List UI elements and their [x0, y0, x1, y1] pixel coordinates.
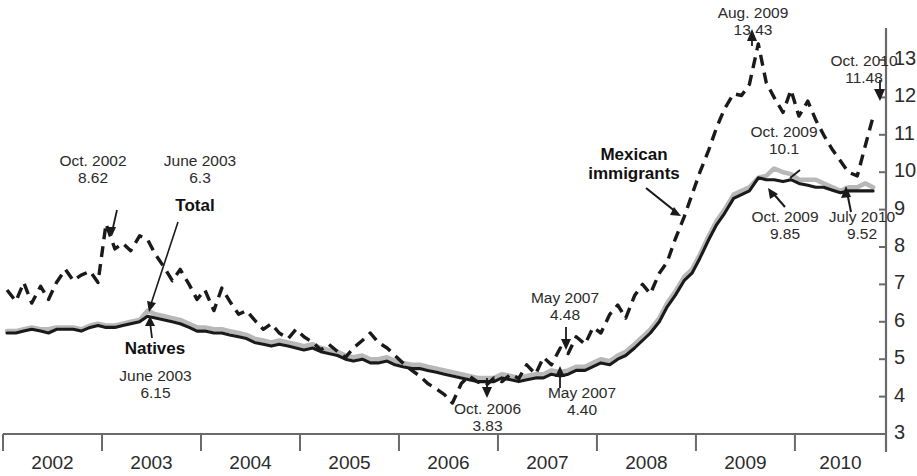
- annotation-oct-2002-date: Oct. 2002: [59, 152, 126, 169]
- x-tick-label-2008: 2008: [597, 452, 696, 474]
- x-tick-label-2005: 2005: [300, 452, 399, 474]
- annotation-june-2003-natives: June 2003 6.15: [98, 367, 213, 401]
- y-tick-label-8: 8: [894, 234, 905, 257]
- annotation-oct-2009-total-value: 10.1: [729, 140, 839, 157]
- annotation-june-2003-total-value: 6.3: [145, 169, 255, 186]
- series-label-mexican-line2: immigrants: [588, 164, 680, 183]
- x-tick-label-2006: 2006: [399, 452, 498, 474]
- x-tick-label-2007: 2007: [498, 452, 597, 474]
- y-tick-label-13: 13: [894, 47, 916, 70]
- annotation-oct-2009-natives-date: Oct. 2009: [751, 208, 818, 225]
- annotation-oct-2009-total-date: Oct. 2009: [750, 123, 817, 140]
- annotation-may-2007-mexican: May 2007 4.48: [510, 289, 620, 323]
- x-tick-label-2009: 2009: [696, 452, 795, 474]
- annotation-oct-2009-total: Oct. 2009 10.1: [729, 123, 839, 157]
- arrowhead-oct-2010: [874, 89, 885, 101]
- annotation-aug-2009-value: 13.43: [697, 21, 809, 38]
- leader-mexican-immigrants: [646, 188, 676, 212]
- annotation-july-2010-date: July 2010: [829, 208, 895, 225]
- x-tick-label-2003: 2003: [102, 452, 201, 474]
- annotation-oct-2006-date: Oct. 2006: [454, 400, 521, 417]
- chart-figure: Oct. 2002 8.62 June 2003 6.3 Total Nativ…: [0, 0, 917, 476]
- annotation-may-2007-natives: May 2007 4.40: [527, 384, 637, 418]
- series-label-total: Total: [140, 196, 250, 215]
- x-axis-ticks: [3, 434, 886, 451]
- series-label-total-text: Total: [175, 196, 214, 215]
- y-tick-label-3: 3: [894, 421, 905, 444]
- annotation-oct-2010-date: Oct. 2010: [830, 52, 897, 69]
- annotation-june-2003-natives-date: June 2003: [119, 367, 191, 384]
- annotation-aug-2009: Aug. 2009 13.43: [697, 4, 809, 38]
- annotation-may-2007-natives-value: 4.40: [527, 401, 637, 418]
- x-tick-label-2004: 2004: [201, 452, 300, 474]
- series-label-natives: Natives: [95, 339, 215, 358]
- x-tick-label-2002: 2002: [3, 452, 102, 474]
- annotation-june-2003-natives-value: 6.15: [98, 384, 213, 401]
- y-tick-label-12: 12: [894, 84, 916, 107]
- annotation-may-2007-mexican-date: May 2007: [531, 289, 599, 306]
- y-tick-label-7: 7: [894, 271, 905, 294]
- annotation-oct-2002-value: 8.62: [38, 169, 148, 186]
- series-label-mexican-line1: Mexican: [600, 145, 667, 164]
- x-tick-label-2010: 2010: [795, 452, 886, 474]
- leader-total: [150, 222, 178, 307]
- series-label-mexican-immigrants: Mexican immigrants: [569, 145, 699, 183]
- annotation-may-2007-mexican-value: 4.48: [510, 306, 620, 323]
- arrowhead-oct-2006: [482, 387, 492, 398]
- annotation-oct-2006-value: 3.83: [430, 417, 545, 434]
- y-tick-label-9: 9: [894, 197, 905, 220]
- annotation-aug-2009-date: Aug. 2009: [718, 4, 789, 21]
- y-tick-label-5: 5: [894, 346, 905, 369]
- annotation-may-2007-natives-date: May 2007: [548, 384, 616, 401]
- y-tick-label-6: 6: [894, 309, 905, 332]
- annotation-june-2003-total: June 2003 6.3: [145, 152, 255, 186]
- y-tick-label-11: 11: [894, 122, 915, 145]
- annotation-oct-2002: Oct. 2002 8.62: [38, 152, 148, 186]
- series-label-natives-text: Natives: [125, 339, 185, 358]
- annotation-june-2003-total-date: June 2003: [164, 152, 236, 169]
- y-tick-label-4: 4: [894, 384, 905, 407]
- y-tick-label-10: 10: [894, 159, 916, 182]
